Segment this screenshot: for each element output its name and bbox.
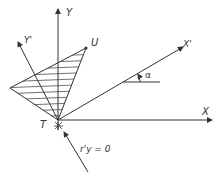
angle-arc — [138, 74, 140, 82]
hatched-triangle — [0, 48, 100, 120]
condition-label: r'y = 0 — [80, 145, 111, 154]
point-u-dot — [85, 47, 88, 50]
y-axis-label: Y — [66, 8, 72, 18]
x-axis-label: X — [202, 107, 209, 117]
point-u-label: U — [91, 38, 98, 48]
y-prime-axis-label: Y' — [24, 36, 32, 45]
x-prime-axis-label: X' — [183, 40, 192, 49]
angle-alpha-label: α — [145, 71, 151, 80]
x-prime-axis — [58, 47, 183, 120]
point-t-label: T — [40, 120, 46, 130]
